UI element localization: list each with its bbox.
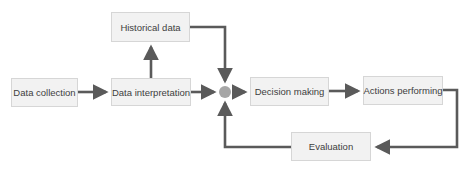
arrow-historical-to-junction — [190, 27, 225, 81]
node-evaluation: Evaluation — [291, 132, 371, 161]
node-decision-making: Decision making — [250, 77, 329, 106]
flowchart-canvas: Data collection Data interpretation Hist… — [0, 0, 469, 170]
node-label: Evaluation — [309, 141, 353, 152]
node-label: Data collection — [13, 87, 75, 98]
node-data-collection: Data collection — [11, 78, 78, 107]
node-label: Data interpretation — [112, 87, 190, 98]
arrow-evaluation-to-junction — [225, 103, 291, 147]
node-label: Decision making — [255, 86, 325, 97]
node-label: Actions performing — [363, 85, 442, 96]
node-historical-data: Historical data — [111, 12, 190, 42]
node-actions-performing: Actions performing — [363, 76, 443, 105]
junction-node — [219, 86, 231, 98]
node-label: Historical data — [120, 22, 180, 33]
node-data-interpretation: Data interpretation — [111, 78, 191, 106]
